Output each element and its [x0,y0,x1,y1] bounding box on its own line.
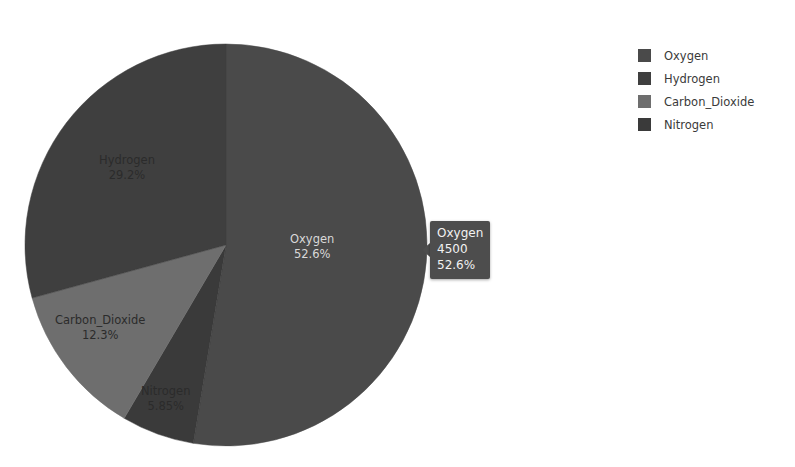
legend-swatch-icon [638,72,651,85]
legend-item-label: Hydrogen [664,72,720,86]
chart-tooltip: Oxygen 4500 52.6% [430,221,490,279]
legend-swatch-icon [638,49,651,62]
tooltip-value: 4500 [437,241,483,257]
tooltip-percent: 52.6% [437,257,483,273]
pie-chart-svg[interactable] [0,0,630,467]
legend-swatch-icon [638,95,651,108]
pie-chart-area: Oxygen52.6%Nitrogen5.85%Carbon_Dioxide12… [0,0,630,467]
legend-swatch-icon [638,118,651,131]
pie-slice-oxygen[interactable] [193,44,427,446]
tooltip-arrow-icon [422,243,430,257]
legend-item-nitrogen[interactable]: Nitrogen [638,113,788,136]
legend-item-label: Carbon_Dioxide [664,95,754,109]
pie-slice-group[interactable] [25,44,427,446]
legend-item-label: Nitrogen [664,118,713,132]
tooltip-series-name: Oxygen [437,225,483,241]
legend-item-carbon_dioxide[interactable]: Carbon_Dioxide [638,90,788,113]
legend-item-hydrogen[interactable]: Hydrogen [638,67,788,90]
chart-legend[interactable]: OxygenHydrogenCarbon_DioxideNitrogen [638,44,788,136]
legend-item-oxygen[interactable]: Oxygen [638,44,788,67]
legend-item-label: Oxygen [664,49,708,63]
